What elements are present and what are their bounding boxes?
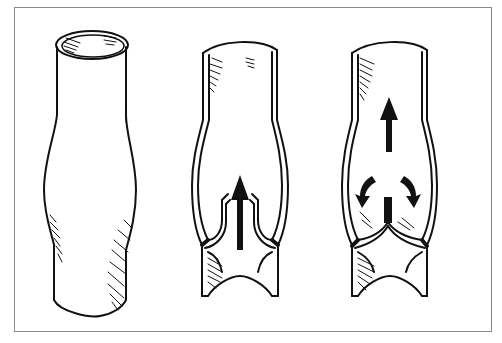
panel-closed-valve	[342, 42, 437, 296]
up-arrow-icon	[231, 175, 249, 250]
curved-arrow-down-left-icon	[355, 176, 376, 208]
shading-hatch	[358, 58, 414, 290]
shading-hatch	[208, 58, 254, 288]
panel-open-valve	[192, 42, 288, 296]
up-arrow-icon	[380, 97, 398, 152]
curved-arrow-down-right-icon	[400, 176, 421, 208]
panel-external-vein	[44, 31, 136, 316]
vein-valve-illustration	[0, 0, 502, 343]
shading-hatch	[50, 36, 132, 310]
figure	[0, 0, 502, 343]
